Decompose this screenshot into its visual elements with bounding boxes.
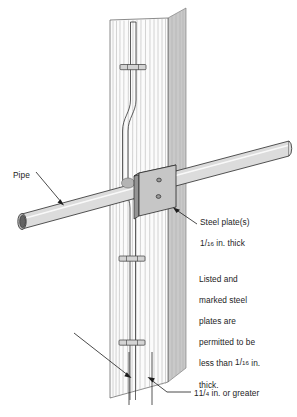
dimension-fraction-denominator: 4	[206, 390, 209, 397]
pipe-label-text: Pipe	[13, 170, 30, 180]
leader-pipe	[36, 172, 62, 203]
steel-plate-label-line1: Steel plate(s)	[200, 217, 250, 227]
fraction-one-sixteenth: 1/16	[200, 238, 214, 250]
note-line-2: marked steel	[199, 295, 291, 305]
dimension-label: 11/4 in. or greater	[194, 388, 259, 400]
steel-plate-note: Listed and marked steel plates are permi…	[199, 264, 291, 401]
note-line-4: permitted to be	[199, 337, 291, 347]
cable-staple-middle	[119, 256, 145, 261]
note-fraction-denominator: 16	[242, 360, 249, 367]
pipe-label: Pipe	[13, 160, 30, 181]
pipe-far-end-cap	[289, 141, 292, 156]
pipe-stud-penetration-shadow	[122, 178, 135, 188]
note-line-5-prefix: less than	[199, 358, 235, 368]
technical-illustration-pipe-stud-steel-plate: Pipe Steel plate(s) 1/16 in. thick Liste…	[0, 0, 297, 417]
note-line-5: less than 1/16 in.	[199, 358, 291, 370]
note-fraction-one-sixteenth: 1/16	[235, 357, 249, 369]
plate-thickness-edge	[134, 173, 139, 219]
plate-face	[139, 165, 176, 216]
fastener-hole-lower	[156, 195, 161, 199]
pipe-right-body	[172, 141, 289, 187]
note-line-3: plates are	[199, 316, 291, 326]
cable-staple-top	[120, 65, 146, 70]
fastener-hole-upper	[157, 178, 162, 182]
steel-plate-label: Steel plate(s) 1/16 in. thick	[200, 207, 250, 260]
steel-plate-label-line2: 1/16 in. thick	[200, 238, 250, 250]
note-line-5-suffix: in.	[249, 358, 260, 368]
cable-staple-bottom	[119, 340, 145, 345]
note-line-1: Listed and	[199, 274, 291, 284]
fraction-denominator: 16	[207, 240, 214, 247]
pipe-end-bore	[20, 215, 26, 227]
steel-plate-label-suffix: in. thick	[214, 238, 245, 248]
dimension-suffix: in. or greater	[209, 388, 259, 398]
fraction-one-quarter: 1/4	[199, 388, 209, 400]
